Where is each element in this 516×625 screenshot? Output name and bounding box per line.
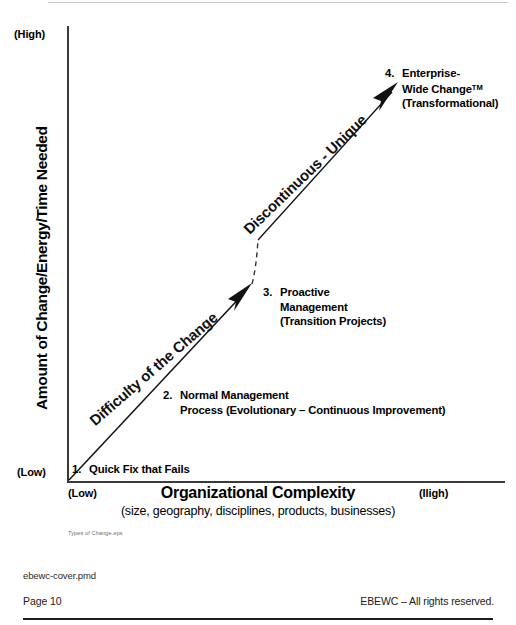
types-of-change-diagram: (High) (Low) (Low) (Iligh) Amount of Cha… xyxy=(0,0,516,520)
annotation-2-normal-management: 2. Normal Management Process (Evolutiona… xyxy=(163,388,445,417)
x-axis-subtitle: (size, geography, disciplines, products,… xyxy=(0,504,516,518)
annotation-1-quick-fix: 1. Quick Fix that Fails xyxy=(72,462,190,477)
annotation-4-line-1: Enterprise- xyxy=(402,66,498,81)
page-canvas: (High) (Low) (Low) (Iligh) Amount of Cha… xyxy=(0,0,516,625)
annotation-3-body: Proactive Management (Transition Project… xyxy=(280,285,386,329)
annotation-3-proactive-management: 3. Proactive Management (Transition Proj… xyxy=(263,285,386,329)
annotation-4-line-2: Wide ChangeTM xyxy=(402,81,498,96)
footer-copyright: EBEWC – All rights reserved. xyxy=(360,595,494,607)
annotation-3-line-1: Proactive xyxy=(280,285,386,300)
series-difficulty-of-the-change xyxy=(69,283,252,480)
footer-file-name: ebewc-cover.pmd xyxy=(23,570,96,581)
annotation-1-line-1: Quick Fix that Fails xyxy=(89,462,190,477)
annotation-2-line-1: Normal Management xyxy=(180,388,445,403)
annotation-4-enterprise-wide-change: 4. Enterprise- Wide ChangeTM (Transforma… xyxy=(385,66,498,110)
annotation-4-number: 4. xyxy=(385,66,402,81)
annotation-4-line-3: (Transformational) xyxy=(402,96,498,111)
annotation-4-body: Enterprise- Wide ChangeTM (Transformatio… xyxy=(402,66,498,110)
annotation-2-body: Normal Management Process (Evolutionary … xyxy=(180,388,445,417)
trademark-symbol: TM xyxy=(472,83,483,92)
discontinuity-dashed-line xyxy=(252,240,258,284)
footer-divider xyxy=(23,618,493,620)
footer-page-number: Page 10 xyxy=(23,595,61,607)
annotation-2-number: 2. xyxy=(163,388,180,403)
x-axis-title: Organizational Complexity xyxy=(0,484,516,502)
annotation-1-number: 1. xyxy=(72,462,89,477)
annotation-2-line-2: Process (Evolutionary – Continuous Impro… xyxy=(180,403,445,418)
annotation-1-body: Quick Fix that Fails xyxy=(89,462,190,477)
annotation-3-number: 3. xyxy=(263,285,280,300)
page-footer: ebewc-cover.pmd Page 10 EBEWC – All righ… xyxy=(0,565,516,625)
annotation-3-line-3: (Transition Projects) xyxy=(280,314,386,329)
annotation-3-line-2: Management xyxy=(280,300,386,315)
eps-source-caption: Types of Change.eps xyxy=(68,530,123,536)
annotation-4-line-2-text: Wide Change xyxy=(402,82,472,94)
